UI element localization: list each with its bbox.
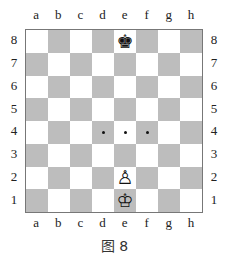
square-a6 [26,76,48,99]
square-a8 [26,30,48,53]
marker-dot-icon [124,131,127,134]
file-label-f: f [136,216,158,230]
square-d3 [92,144,114,167]
square-f6 [136,76,158,99]
square-a2 [26,167,48,190]
square-e7 [114,53,136,76]
square-d1 [92,189,114,212]
marker-dot-icon [102,131,105,134]
file-labels-top: abcdefgh [25,8,202,22]
rank-label-4: 4 [207,120,221,143]
square-h5 [180,98,202,121]
square-b7 [48,53,70,76]
rank-label-8: 8 [7,29,21,52]
square-h4 [180,121,202,144]
square-g6 [158,76,180,99]
rank-label-6: 6 [207,75,221,98]
file-label-a: a [25,8,47,22]
square-d5 [92,98,114,121]
square-b2 [48,167,70,190]
black-king-icon: ♚ [116,32,133,51]
file-label-f: f [136,8,158,22]
square-f5 [136,98,158,121]
square-d7 [92,53,114,76]
square-c3 [70,144,92,167]
white-king-icon: ♔ [116,191,133,210]
square-f3 [136,144,158,167]
square-b6 [48,76,70,99]
square-e6 [114,76,136,99]
square-b1 [48,189,70,212]
file-label-b: b [47,8,69,22]
square-a5 [26,98,48,121]
square-e8: ♚ [114,30,136,53]
square-b3 [48,144,70,167]
rank-label-6: 6 [7,75,21,98]
square-c2 [70,167,92,190]
square-d4 [92,121,114,144]
square-f2 [136,167,158,190]
rank-label-2: 2 [7,166,21,189]
square-e5 [114,98,136,121]
rank-label-3: 3 [7,143,21,166]
square-c5 [70,98,92,121]
square-a3 [26,144,48,167]
square-b5 [48,98,70,121]
square-h3 [180,144,202,167]
square-g4 [158,121,180,144]
rank-label-8: 8 [207,29,221,52]
square-f7 [136,53,158,76]
square-c7 [70,53,92,76]
rank-label-7: 7 [7,52,21,75]
file-label-e: e [114,216,136,230]
square-e4 [114,121,136,144]
rank-label-3: 3 [207,143,221,166]
rank-labels-right: 87654321 [207,29,221,211]
square-d8 [92,30,114,53]
file-label-a: a [25,216,47,230]
rank-label-4: 4 [7,120,21,143]
square-g7 [158,53,180,76]
rank-labels-left: 87654321 [7,29,21,211]
square-d2 [92,167,114,190]
square-c8 [70,30,92,53]
square-b4 [48,121,70,144]
square-c6 [70,76,92,99]
file-label-h: h [180,8,202,22]
rank-label-2: 2 [207,166,221,189]
square-g1 [158,189,180,212]
square-a7 [26,53,48,76]
square-e3 [114,144,136,167]
file-label-e: e [114,8,136,22]
square-h8 [180,30,202,53]
file-labels-bottom: abcdefgh [25,216,202,230]
square-h7 [180,53,202,76]
file-label-g: g [158,8,180,22]
figure-caption: 图 8 [0,235,229,255]
marker-dot-icon [146,131,149,134]
file-label-b: b [47,216,69,230]
square-h1 [180,189,202,212]
file-label-h: h [180,216,202,230]
rank-label-5: 5 [207,97,221,120]
square-f1 [136,189,158,212]
file-label-c: c [69,8,91,22]
square-c4 [70,121,92,144]
square-a1 [26,189,48,212]
square-c1 [70,189,92,212]
chess-board: ♚♙♔ [25,29,203,213]
square-g8 [158,30,180,53]
square-g5 [158,98,180,121]
square-e1: ♔ [114,189,136,212]
square-d6 [92,76,114,99]
square-e2: ♙ [114,167,136,190]
file-label-d: d [91,8,113,22]
file-label-g: g [158,216,180,230]
rank-label-1: 1 [207,188,221,211]
white-pawn-icon: ♙ [116,168,133,187]
square-f8 [136,30,158,53]
file-label-c: c [69,216,91,230]
square-f4 [136,121,158,144]
square-b8 [48,30,70,53]
square-a4 [26,121,48,144]
